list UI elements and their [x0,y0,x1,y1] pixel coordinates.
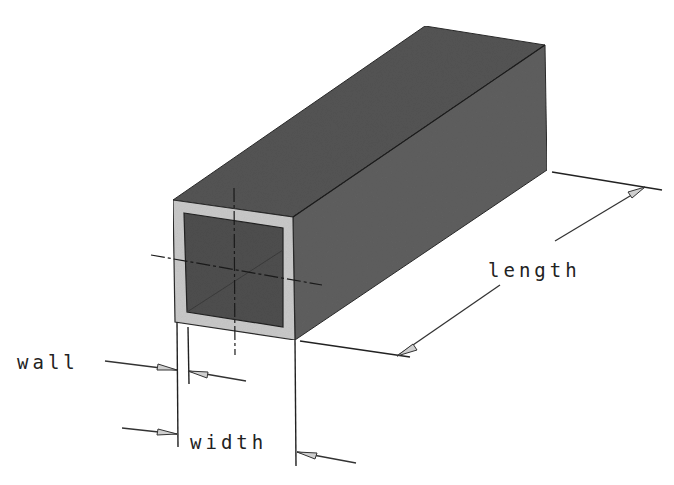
wall-arrow-right-icon [188,371,208,378]
tube-hollow-interior [184,213,283,327]
length-arrow-top-icon [628,187,645,198]
wall-arrow-left-icon [157,364,177,370]
length-label: length [488,259,581,281]
width-label: width [190,431,267,453]
width-dimension: width [122,428,356,463]
width-arrow-right-icon [297,452,317,459]
wall-label: wall [17,351,79,373]
tube-diagram: length wall width [0,0,674,485]
tube-body [173,26,547,340]
wall-dimension: wall [17,351,246,381]
width-arrow-left-icon [157,429,177,435]
length-arrow-bottom-icon [397,344,417,356]
